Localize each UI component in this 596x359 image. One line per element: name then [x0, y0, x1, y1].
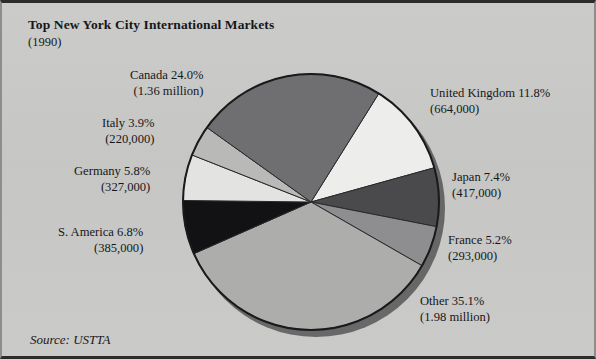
pie-shadow	[187, 79, 445, 337]
slice-label-japan-percent: Japan 7.4%	[452, 169, 510, 185]
slice-label-france-percent: France 5.2%	[448, 232, 512, 248]
pie-slice-other[interactable]	[194, 202, 422, 330]
slice-label-united-kingdom: United Kingdom 11.8% (664,000)	[430, 85, 550, 118]
slice-label-italy: Italy 3.9% (220,000)	[102, 115, 154, 148]
pie-slice-canada[interactable]	[207, 74, 379, 202]
slice-label-canada-percent: Canada 24.0%	[130, 67, 203, 83]
pie-slice-france[interactable]	[311, 202, 437, 266]
pie-slice-s-america[interactable]	[183, 200, 311, 253]
slice-label-other: Other 35.1% (1.98 million)	[420, 293, 490, 326]
chart-subtitle: (1990)	[28, 34, 274, 50]
slice-label-canada: Canada 24.0% (1.36 million)	[130, 67, 203, 100]
pie-outline	[183, 74, 439, 330]
slice-label-united-kingdom-percent: United Kingdom 11.8%	[430, 85, 550, 101]
pie-slice-japan[interactable]	[311, 168, 439, 227]
slice-label-south-america-count: (385,000)	[58, 240, 143, 256]
slice-label-france: France 5.2% (293,000)	[448, 232, 512, 265]
slice-label-italy-count: (220,000)	[102, 131, 154, 147]
slice-label-germany: Germany 5.8% (327,000)	[74, 163, 150, 196]
slice-label-france-count: (293,000)	[448, 248, 512, 264]
slice-label-germany-count: (327,000)	[74, 179, 150, 195]
chart-title-block: Top New York City International Markets …	[28, 16, 274, 50]
pie-slice-italy[interactable]	[192, 127, 311, 202]
chart-source: Source: USTTA	[30, 332, 111, 348]
slice-label-other-count: (1.98 million)	[420, 309, 490, 325]
slice-label-japan-count: (417,000)	[452, 185, 510, 201]
figure-container: Top New York City International Markets …	[0, 0, 596, 359]
pie-slice-germany[interactable]	[183, 155, 311, 202]
slice-label-italy-percent: Italy 3.9%	[102, 115, 154, 131]
slice-label-south-america: S. America 6.8% (385,000)	[58, 224, 143, 257]
slice-label-canada-count: (1.36 million)	[130, 83, 203, 99]
slice-label-germany-percent: Germany 5.8%	[74, 163, 150, 179]
slice-label-other-percent: Other 35.1%	[420, 293, 490, 309]
pie-slice-united-kingdom[interactable]	[311, 93, 434, 202]
slice-label-japan: Japan 7.4% (417,000)	[452, 169, 510, 202]
slice-label-south-america-percent: S. America 6.8%	[58, 224, 143, 240]
slice-label-united-kingdom-count: (664,000)	[430, 101, 550, 117]
page-title: Top New York City International Markets	[28, 16, 274, 33]
figure-background: Top New York City International Markets …	[2, 3, 594, 356]
